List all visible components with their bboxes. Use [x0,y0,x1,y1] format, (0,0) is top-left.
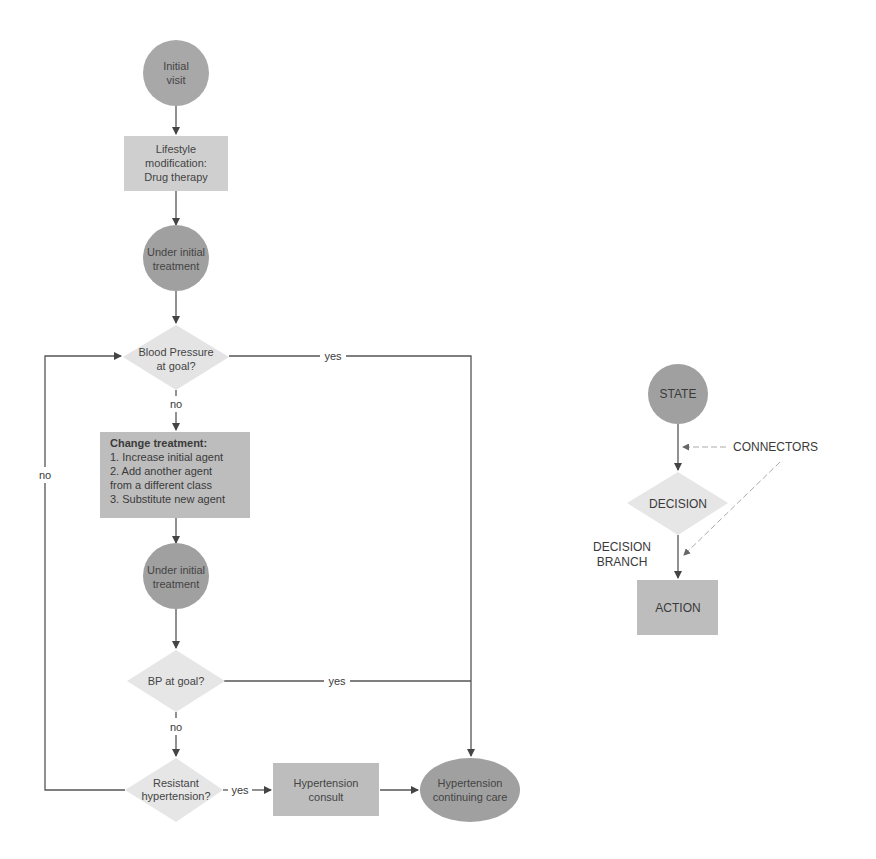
flowchart-canvas: yes no no yes no yes Initial visit Lifes… [0,0,876,859]
legend-decision-branch-label-2: BRANCH [597,555,648,569]
node-text-line: Resistant [153,777,199,789]
node-text-line: Hypertension [294,777,359,789]
node-text-line: consult [309,791,344,803]
node-resistant-hypertension: Resistant hypertension? [125,758,223,822]
node-text-line: hypertension? [141,790,210,802]
edge-label-bp1-no: no [170,398,182,410]
change-treatment-title: Change treatment: [110,437,207,449]
node-text-line: Hypertension [438,777,503,789]
legend: STATE DECISION ACTION CONNECTORS DECISIO… [593,364,818,635]
legend-decision-branch-label-1: DECISION [593,540,651,554]
node-change-treatment: Change treatment: 1. Increase initial ag… [100,432,250,518]
node-text-line: Under initial [147,564,205,576]
node-text-line: 2. Add another agent [110,465,212,477]
node-text-line: at goal? [156,360,195,372]
legend-action-label: ACTION [655,601,700,615]
state-circle [143,40,209,106]
node-lifestyle-modification: Lifestyle modification: Drug therapy [124,136,228,191]
edge-label-bp1-yes: yes [324,350,342,362]
edge-label-resistant-yes: yes [231,784,249,796]
node-text-line: from a different class [110,479,212,491]
state-circle [143,225,209,291]
node-text-line: continuing care [433,791,508,803]
node-text-line: visit [167,74,186,86]
node-text-line: BP at goal? [148,675,205,687]
node-text-line: modification: [145,157,207,169]
node-text-line: 3. Substitute new agent [110,493,225,505]
node-blood-pressure-at-goal: Blood Pressure at goal? [123,325,229,390]
edge-label-loop-no: no [39,469,51,481]
node-text-line: Initial [163,60,189,72]
node-text-line: Drug therapy [144,171,208,183]
edge-bp1-yes-to-care [346,356,471,756]
node-text-line: treatment [153,260,199,272]
node-hypertension-consult: Hypertension consult [273,763,379,816]
node-text-line: Blood Pressure [138,346,213,358]
state-circle [143,543,209,609]
node-text-line: Under initial [147,246,205,258]
legend-connectors-label: CONNECTORS [733,440,818,454]
node-hypertension-continuing-care: Hypertension continuing care [420,758,520,822]
state-ellipse [420,758,520,822]
node-initial-visit: Initial visit [143,40,209,106]
node-text-line: treatment [153,578,199,590]
node-bp-at-goal: BP at goal? [127,650,225,712]
node-text-line: 1. Increase initial agent [110,451,223,463]
node-under-initial-treatment-2: Under initial treatment [143,543,209,609]
edge-label-bp2-yes: yes [328,675,346,687]
edge-label-bp2-no: no [170,721,182,733]
node-text-line: Lifestyle [156,143,196,155]
action-box [273,763,379,816]
node-under-initial-treatment-1: Under initial treatment [143,225,209,291]
legend-decision-label: DECISION [649,497,707,511]
legend-state-label: STATE [660,387,697,401]
edge-loop-bottom [45,483,125,790]
